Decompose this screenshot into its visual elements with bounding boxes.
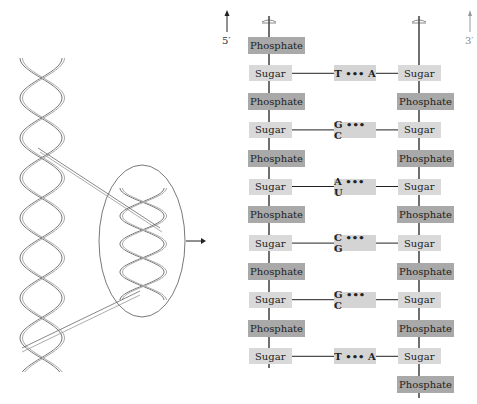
three-prime-label: 3′	[465, 35, 474, 46]
base-pair: T ••• A	[334, 348, 376, 364]
phosphate-box: Phosphate	[397, 263, 454, 280]
helix-illustration	[0, 0, 477, 404]
phosphate-box: Phosphate	[397, 93, 454, 110]
phosphate-box: Phosphate	[248, 206, 305, 223]
arrow-up-icon	[468, 10, 472, 16]
arrow-right-icon	[201, 238, 206, 244]
sugar-box: Sugar	[249, 122, 292, 138]
sugar-box: Sugar	[398, 348, 441, 364]
phosphate-box: Phosphate	[248, 320, 305, 337]
dna-diagram: 5′ 3′ PhosphateSugarPhosphateSugarPhosph…	[0, 0, 477, 404]
magnify-ellipse	[99, 165, 185, 317]
sugar-box: Sugar	[249, 65, 292, 81]
phosphate-box: Phosphate	[248, 150, 305, 167]
sugar-box: Sugar	[249, 348, 292, 364]
sugar-box: Sugar	[398, 122, 441, 138]
phosphate-box: Phosphate	[397, 150, 454, 167]
sugar-box: Sugar	[398, 65, 441, 81]
base-pair: C ••• G	[334, 235, 376, 251]
phosphate-box: Phosphate	[248, 37, 305, 54]
sugar-box: Sugar	[398, 179, 441, 195]
phosphate-box: Phosphate	[248, 93, 305, 110]
phosphate-box: Phosphate	[248, 263, 305, 280]
sugar-box: Sugar	[249, 179, 292, 195]
base-pair: A ••• U	[334, 179, 376, 195]
base-pair: G ••• C	[334, 122, 376, 138]
sugar-box: Sugar	[249, 292, 292, 308]
phosphate-box: Phosphate	[397, 320, 454, 337]
phosphate-box: Phosphate	[397, 376, 454, 393]
sugar-box: Sugar	[249, 235, 292, 251]
base-pair: T ••• A	[334, 65, 376, 81]
phosphate-box: Phosphate	[397, 206, 454, 223]
sugar-box: Sugar	[398, 292, 441, 308]
five-prime-label: 5′	[222, 35, 231, 46]
sugar-box: Sugar	[398, 235, 441, 251]
arrow-up-icon	[225, 10, 230, 16]
base-pair: G ••• C	[334, 292, 376, 308]
